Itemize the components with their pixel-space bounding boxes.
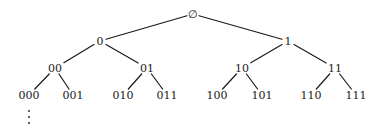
tree-edge bbox=[246, 74, 257, 89]
tree-edge bbox=[128, 74, 141, 89]
tree-node-label: 0 bbox=[97, 35, 104, 48]
tree-node-label: 101 bbox=[252, 89, 273, 102]
tree-node-label: 00 bbox=[48, 62, 62, 75]
tree-node-label: 10 bbox=[235, 62, 249, 75]
binary-tree-diagram: ∅0100011011000001010011100101110111 bbox=[0, 0, 382, 130]
tree-node-label: 1 bbox=[285, 35, 292, 48]
tree-nodes: ∅0100011011000001010011100101110111 bbox=[19, 8, 367, 102]
tree-edge bbox=[64, 45, 94, 63]
tree-edge bbox=[106, 16, 187, 40]
tree-root-node-empty-set: ∅ bbox=[188, 8, 198, 21]
continuation-ellipsis-icon bbox=[28, 110, 30, 124]
tree-edge bbox=[199, 16, 282, 40]
tree-edges bbox=[35, 16, 352, 89]
tree-node-label: 11 bbox=[328, 62, 342, 75]
tree-node-label: 001 bbox=[63, 89, 84, 102]
tree-node-label: 110 bbox=[301, 89, 322, 102]
tree-node-label: 010 bbox=[113, 89, 134, 102]
tree-node-label: 011 bbox=[157, 89, 178, 102]
ellipsis-dot bbox=[28, 110, 30, 112]
tree-edge bbox=[223, 74, 237, 89]
tree-edge bbox=[151, 74, 162, 89]
tree-edge bbox=[316, 74, 329, 89]
tree-edge bbox=[294, 44, 326, 62]
tree-edge bbox=[59, 74, 69, 89]
tree-edge bbox=[35, 74, 49, 89]
ellipsis-dot bbox=[28, 116, 30, 118]
tree-node-label: 01 bbox=[140, 62, 154, 75]
tree-node-label: 000 bbox=[19, 89, 40, 102]
tree-node-label: 111 bbox=[346, 89, 367, 102]
tree-node-label: 100 bbox=[207, 89, 228, 102]
tree-edge bbox=[106, 44, 138, 62]
tree-edge bbox=[251, 45, 282, 63]
tree-edge bbox=[340, 74, 352, 89]
ellipsis-dot bbox=[28, 122, 30, 124]
